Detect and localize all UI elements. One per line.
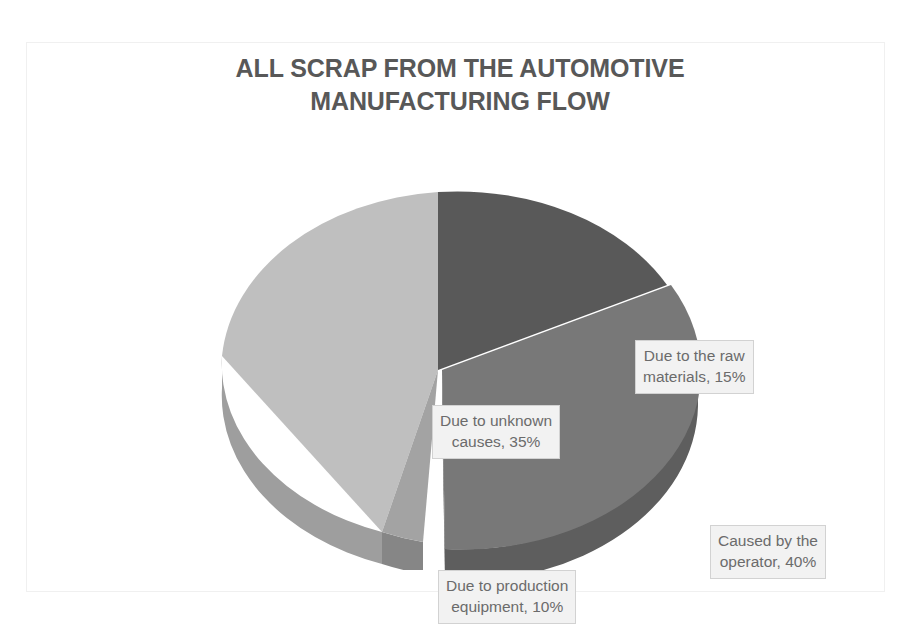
- data-label-raw-materials: Due to the raw materials, 15%: [635, 340, 754, 394]
- pie-chart-plot-area: Due to the raw materials, 15% Caused by …: [180, 150, 740, 570]
- data-label-production-equipment: Due to production equipment, 10%: [438, 570, 576, 624]
- data-label-unknown-causes: Due to unknown causes, 35%: [432, 405, 560, 459]
- data-label-operator-line-1: Caused by the: [718, 530, 818, 551]
- data-label-production-equipment-line-2: equipment, 10%: [446, 596, 568, 617]
- chart-title-line-1: ALL SCRAP FROM THE AUTOMOTIVE: [140, 52, 780, 85]
- data-label-unknown-causes-line-1: Due to unknown: [440, 410, 552, 431]
- data-label-raw-materials-line-1: Due to the raw: [643, 345, 746, 366]
- chart-title: ALL SCRAP FROM THE AUTOMOTIVE MANUFACTUR…: [140, 52, 780, 118]
- data-label-operator-line-2: operator, 40%: [718, 551, 818, 572]
- data-label-operator: Caused by the operator, 40%: [710, 525, 826, 579]
- data-label-production-equipment-line-1: Due to production: [446, 575, 568, 596]
- data-label-raw-materials-line-2: materials, 15%: [643, 366, 746, 387]
- chart-title-line-2: MANUFACTURING FLOW: [140, 85, 780, 118]
- data-label-unknown-causes-line-2: causes, 35%: [440, 431, 552, 452]
